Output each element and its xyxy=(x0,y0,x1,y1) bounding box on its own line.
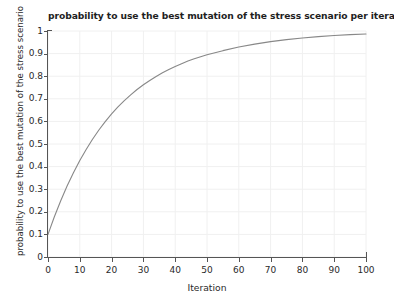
x-tick-mark xyxy=(334,258,335,262)
x-axis-tick-labels: 0102030405060708090100 xyxy=(0,0,394,305)
x-tick-mark xyxy=(302,258,303,262)
x-tick-mark xyxy=(271,258,272,262)
x-axis-title: Iteration xyxy=(48,282,366,293)
chart-figure: probability to use the best mutation of … xyxy=(0,0,394,305)
x-tick-label: 100 xyxy=(346,266,386,275)
x-tick-mark xyxy=(112,258,113,262)
x-tick-mark xyxy=(366,258,367,262)
x-tick-mark xyxy=(48,258,49,262)
x-tick-mark xyxy=(143,258,144,262)
x-tick-mark xyxy=(175,258,176,262)
x-tick-mark xyxy=(207,258,208,262)
x-tick-mark xyxy=(80,258,81,262)
y-axis-title: probability to use the best mutation of … xyxy=(15,30,25,256)
x-tick-mark xyxy=(239,258,240,262)
